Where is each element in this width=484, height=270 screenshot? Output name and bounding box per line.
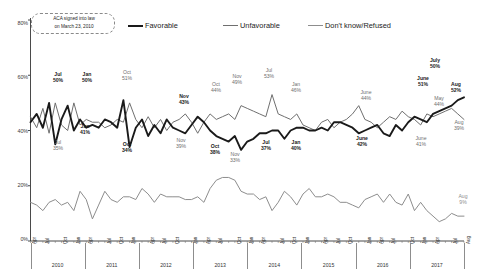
- point-label-jul-35: Jul35%: [45, 140, 71, 152]
- x-tick-month: Jul: [218, 238, 223, 244]
- x-tick-month: Jan: [131, 237, 136, 244]
- x-tick-month: Apr: [323, 237, 328, 244]
- aca-favorability-chart: 80% 60% 40% 20% 0% ACA signed into law o…: [0, 0, 484, 270]
- x-tick-month: Jul: [107, 238, 112, 244]
- point-label-jul-53: Jul53%: [256, 68, 282, 80]
- x-tick-month: Apr: [32, 237, 37, 244]
- x-year-label: 2015: [301, 262, 355, 268]
- point-label-june-44: June44%: [353, 90, 379, 102]
- point-label-nov-49: Nov49%: [224, 74, 250, 86]
- x-year-label: 2013: [193, 262, 247, 268]
- x-tick-month: Apr: [379, 237, 384, 244]
- x-tick-month: Oct: [237, 237, 242, 244]
- point-label-june-51: June51%: [410, 76, 436, 88]
- x-group-separator: [247, 243, 248, 269]
- x-tick-month: Jul: [453, 238, 458, 244]
- x-tick-month: Apr: [150, 237, 155, 244]
- x-tick-month: Jan: [305, 237, 310, 244]
- x-tick-month: Oct: [119, 237, 124, 244]
- x-year-label: 2014: [247, 262, 301, 268]
- x-year-label: 2010: [31, 262, 85, 268]
- point-label-oct-51: Oct51%: [114, 70, 140, 82]
- x-group-separator: [139, 243, 140, 269]
- x-year-label: 2017: [410, 262, 464, 268]
- x-group-separator: [85, 243, 86, 269]
- point-label-aug-9: Aug9%: [450, 194, 476, 206]
- x-tick-month: Jan: [422, 237, 427, 244]
- x-tick-month: Jul: [162, 238, 167, 244]
- point-label-june-41: June41%: [408, 136, 434, 148]
- x-group-separator: [31, 243, 32, 269]
- x-year-label: 2012: [139, 262, 193, 268]
- point-label-nov-33: Nov33%: [222, 152, 248, 164]
- x-tick-month: Oct: [410, 237, 415, 244]
- point-label-jan-40: Jan40%: [283, 140, 309, 152]
- x-year-label: 2011: [85, 262, 139, 268]
- x-tick-month: Oct: [292, 237, 297, 244]
- point-label-jul-37: Jul37%: [253, 140, 279, 152]
- x-group-separator: [356, 243, 357, 269]
- point-label-jan-41: Jan41%: [72, 124, 98, 136]
- x-tick-month: Jul: [391, 238, 396, 244]
- point-label-may-44: May44%: [426, 96, 452, 108]
- point-label-aug-39: Aug39%: [446, 120, 472, 132]
- point-label-jul-50: Jul50%: [45, 72, 71, 84]
- x-group-separator: [301, 243, 302, 269]
- point-label-nov-39: Nov39%: [168, 138, 194, 150]
- x-group-separator: [410, 243, 411, 269]
- x-tick-month: Jan: [249, 237, 254, 244]
- x-group-separator: [193, 243, 194, 269]
- x-tick-month: Jul: [45, 238, 50, 244]
- x-tick-month: Apr: [206, 237, 211, 244]
- point-label-jan-46: Jan46%: [283, 82, 309, 94]
- x-tick-month: Oct: [63, 237, 68, 244]
- x-year-label: 2016: [356, 262, 410, 268]
- point-label-june-42: June42%: [349, 136, 375, 148]
- x-group-separator: [464, 243, 465, 269]
- x-tick-month: Jul: [336, 238, 341, 244]
- point-label-aug-52: Aug52%: [443, 82, 469, 94]
- x-tick-month: Apr: [88, 237, 93, 244]
- point-label-jan-50: Jan50%: [74, 72, 100, 84]
- x-tick-month: Oct: [175, 237, 180, 244]
- x-tick-month: Jul: [280, 238, 285, 244]
- x-tick-month: Jan: [76, 237, 81, 244]
- point-label-nov-43: Nov43%: [171, 94, 197, 106]
- x-tick-month: Apr: [435, 237, 440, 244]
- point-label-oct-34: Oct34%: [114, 142, 140, 154]
- x-tick-month: Jan: [367, 237, 372, 244]
- x-tick-month: Oct: [348, 237, 353, 244]
- x-tick-month: Apr: [261, 237, 266, 244]
- x-tick-month: Jan: [193, 237, 198, 244]
- x-tick-month: Aug: [466, 236, 471, 244]
- point-label-july-50: July50%: [422, 58, 448, 70]
